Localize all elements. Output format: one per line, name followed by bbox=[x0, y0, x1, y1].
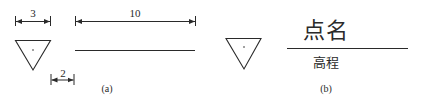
triangle-point-symbol-a bbox=[16, 41, 51, 71]
dimension-label-2: 2 bbox=[60, 68, 66, 79]
triangle-point-symbol-b bbox=[226, 39, 261, 70]
figure-a bbox=[16, 16, 196, 85]
dimension-label-3: 3 bbox=[30, 8, 36, 19]
elevation-label: 高程 bbox=[313, 56, 339, 69]
caption-b: (b) bbox=[320, 84, 332, 94]
diagram-canvas bbox=[0, 0, 422, 104]
point-name-label: 点名 bbox=[303, 20, 349, 42]
dimension-label-10: 10 bbox=[130, 8, 141, 19]
caption-a: (a) bbox=[101, 84, 112, 94]
